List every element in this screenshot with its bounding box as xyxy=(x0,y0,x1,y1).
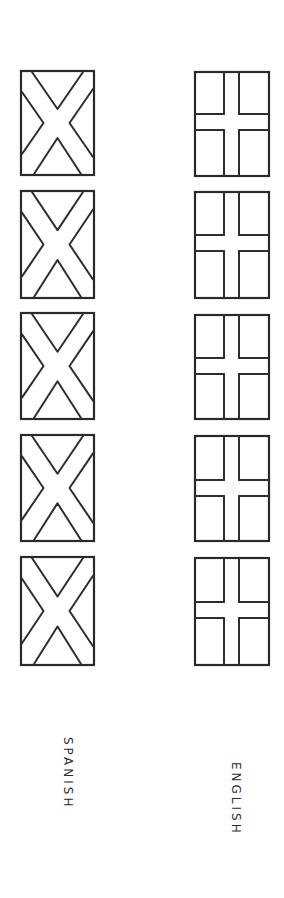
english-flag-3 xyxy=(195,315,269,419)
spanish-flag-icon xyxy=(21,313,94,419)
spanish-flag-icon xyxy=(21,557,94,665)
spanish-flag-2 xyxy=(21,191,94,298)
spanish-flag-5 xyxy=(21,557,94,665)
english-flag-icon xyxy=(195,558,269,665)
english-flag-icon xyxy=(195,192,269,298)
english-flag-1 xyxy=(195,72,269,176)
flag-border xyxy=(195,315,269,419)
spanish-flag-3 xyxy=(21,313,94,419)
flag-border xyxy=(195,558,269,665)
english-flag-5 xyxy=(195,558,269,665)
spanish-flag-icon xyxy=(21,435,94,541)
english-flag-4 xyxy=(195,436,269,541)
english-flag-2 xyxy=(195,192,269,298)
flag-border xyxy=(21,191,94,298)
flag-border xyxy=(195,192,269,298)
spanish-label: SPANISH xyxy=(61,737,75,809)
flag-border xyxy=(21,557,94,665)
spanish-flag-4 xyxy=(21,435,94,541)
english-flag-icon xyxy=(195,72,269,176)
spanish-flag-icon xyxy=(21,191,94,298)
flag-border xyxy=(21,71,94,175)
spanish-flag-1 xyxy=(21,71,94,175)
flag-border xyxy=(195,72,269,176)
english-flag-icon xyxy=(195,315,269,419)
spanish-flag-icon xyxy=(21,71,94,175)
flag-border xyxy=(195,436,269,541)
flag-border xyxy=(21,435,94,541)
english-flag-icon xyxy=(195,436,269,541)
english-label: ENGLISH xyxy=(229,762,243,836)
flag-border xyxy=(21,313,94,419)
